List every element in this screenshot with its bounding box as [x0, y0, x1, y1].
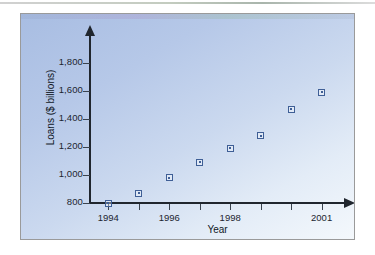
y-tick-mark — [83, 119, 90, 120]
x-tick-label: 1996 — [146, 212, 192, 223]
x-tick-label: 1994 — [85, 212, 131, 223]
top-rule-divider — [0, 2, 375, 4]
data-point — [318, 89, 325, 96]
x-tick-mark — [139, 204, 140, 210]
x-tick-mark — [230, 204, 231, 210]
data-point — [135, 190, 142, 197]
y-tick-label: 1,200 — [35, 140, 83, 151]
y-tick-mark — [83, 175, 90, 176]
x-tick-mark — [322, 204, 323, 210]
scatter-plot: Loans ($ billions) Year 8001,0001,2001,4… — [21, 14, 355, 240]
x-tick-label: 2001 — [299, 212, 345, 223]
x-tick-mark — [169, 204, 170, 210]
y-tick-label: 1,600 — [35, 84, 83, 95]
data-point — [288, 106, 295, 113]
x-tick-label: 1998 — [207, 212, 253, 223]
figure: Loans ($ billions) Year 8001,0001,2001,4… — [0, 0, 375, 255]
y-axis-arrow-icon — [85, 25, 95, 36]
y-tick-mark — [83, 203, 90, 204]
x-tick-mark — [200, 204, 201, 210]
chart-panel: Loans ($ billions) Year 8001,0001,2001,4… — [20, 13, 355, 240]
x-axis-line — [89, 202, 346, 204]
y-tick-label: 1,000 — [35, 168, 83, 179]
x-axis-title: Year — [89, 224, 346, 235]
y-tick-mark — [83, 147, 90, 148]
y-tick-label: 1,800 — [35, 56, 83, 67]
y-tick-mark — [83, 91, 90, 92]
x-tick-mark — [261, 204, 262, 210]
data-point — [257, 132, 264, 139]
x-tick-mark — [291, 204, 292, 210]
x-axis-arrow-icon — [344, 198, 355, 208]
data-point — [196, 159, 203, 166]
y-tick-label: 800 — [35, 196, 83, 207]
y-tick-mark — [83, 63, 90, 64]
data-point — [227, 145, 234, 152]
y-tick-label: 1,400 — [35, 112, 83, 123]
data-point — [166, 174, 173, 181]
data-point — [105, 200, 112, 207]
